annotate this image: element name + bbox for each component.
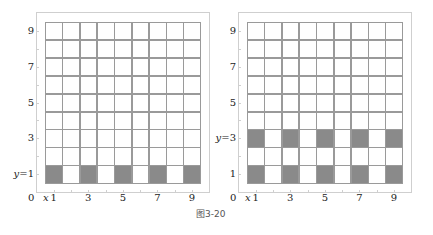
grid-cell [247,76,265,94]
grid-cell [114,112,132,130]
x-tick [308,190,309,193]
origin-label: 0 [28,193,34,203]
grid-cell [183,129,201,147]
grid-cell [351,58,369,76]
filled-cell [385,165,403,183]
x-axis-label: 5 [318,193,332,203]
grid-cell [149,22,167,40]
grid-cell [45,147,63,165]
grid-cell [299,94,317,112]
grid-cell [80,58,98,76]
grid-cell [247,112,265,130]
grid-cell [334,165,352,183]
grid-cell [299,40,317,58]
filled-cell [45,165,63,183]
grid-cell [247,58,265,76]
grid-cell [351,147,369,165]
grid-cell [368,22,386,40]
x-tick [175,190,176,193]
x-axis-variable: x [245,193,251,203]
grid-cell [351,40,369,58]
y-tick [36,138,39,139]
y-tick [238,103,241,104]
grid-cell [282,58,300,76]
grid-cell [80,22,98,40]
grid-cell [264,94,282,112]
x-axis-label: 5 [116,193,130,203]
grid-cell [62,147,80,165]
y-axis-label: y=1 [0,169,34,179]
grid-cell [264,147,282,165]
x-axis-variable: x [43,193,49,203]
grid-cell [62,58,80,76]
y-axis-label: 1 [202,169,236,179]
grid-cell [316,40,334,58]
grid-cell [114,58,132,76]
grid-cell [299,76,317,94]
grid-cell [299,112,317,130]
grid-cell [299,58,317,76]
grid-cell [166,58,184,76]
grid-cell [368,147,386,165]
grid-cell [132,22,150,40]
y-tick [36,49,39,50]
grid-cell [80,147,98,165]
grid-cell [334,129,352,147]
grid-panel-right: 975y=31135790x [202,0,417,205]
grid-cell [264,76,282,94]
x-axis-label: 9 [387,193,401,203]
grid-cell [183,22,201,40]
y-axis-label: 3 [0,133,34,143]
grid-cell [385,58,403,76]
x-axis-label: 7 [150,193,164,203]
filled-cell [351,129,369,147]
figure-caption: 图3-20 [196,207,225,220]
x-tick [71,190,72,193]
y-tick [36,103,39,104]
x-axis-label: 3 [283,193,297,203]
grid-cell [45,40,63,58]
grid-cell [264,40,282,58]
grid-cell [334,40,352,58]
y-axis-label: y=3 [202,133,236,143]
grid-cell [80,40,98,58]
grid-cell [247,94,265,112]
grid-cell [45,58,63,76]
grid-cell [45,76,63,94]
grid-cell [282,112,300,130]
grid-cell [149,112,167,130]
grid-cell [351,76,369,94]
grid-cell [80,94,98,112]
grid-cell [80,129,98,147]
y-tick [238,31,241,32]
grid-cell [183,58,201,76]
grid-cell [368,112,386,130]
grid-cell [114,129,132,147]
grid-cell [97,147,115,165]
grid-cell [149,147,167,165]
grid-cell [132,129,150,147]
grid-cell [149,94,167,112]
filled-cell [183,165,201,183]
grid-cell [183,112,201,130]
grid-cell [368,94,386,112]
grid-cell [264,22,282,40]
grid-cell [247,147,265,165]
y-tick [238,85,241,86]
grid-cell [97,76,115,94]
grid-cell [97,22,115,40]
grid-cell [264,165,282,183]
y-axis-label: 5 [202,98,236,108]
grid-cell [385,94,403,112]
y-tick [36,156,39,157]
grid-cell [97,40,115,58]
grid-cell [282,22,300,40]
grid-cell [316,94,334,112]
x-tick [106,190,107,193]
grid-cell [282,76,300,94]
grid-cell [368,58,386,76]
grid-cell [62,76,80,94]
grid-cell [45,22,63,40]
grid-cell [166,76,184,94]
grid-cell [264,58,282,76]
